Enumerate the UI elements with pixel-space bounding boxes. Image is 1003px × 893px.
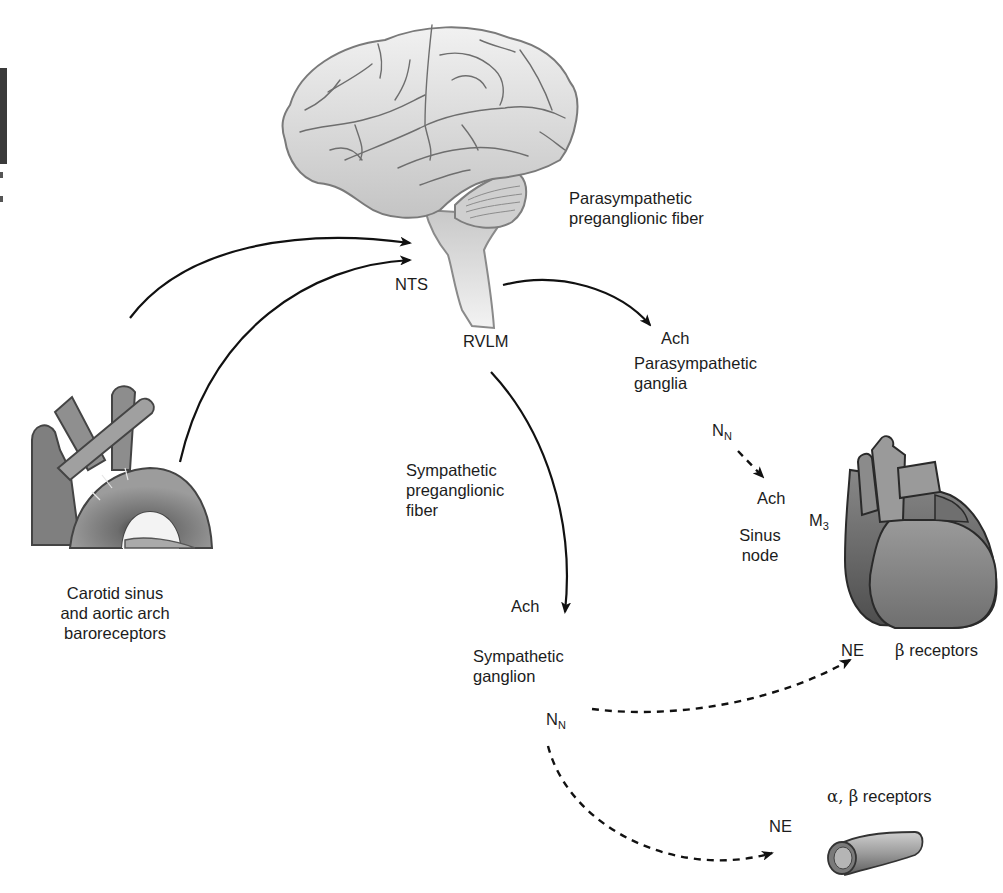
label-line: Sympathetic <box>473 646 564 666</box>
brain-icon <box>283 25 578 328</box>
vessel-alpha-beta-receptors-label: α, β receptors <box>827 786 932 807</box>
sympathetic-cardiac-arrow <box>592 660 850 712</box>
afferent-arrows <box>130 238 410 462</box>
afferent-arrow-aortic <box>180 260 410 462</box>
sympathetic-nn-receptor-label: NN <box>546 709 566 729</box>
afferent-arrow-carotid <box>130 238 410 318</box>
sympathetic-preganglionic-label: Sympathetic preganglionic fiber <box>406 460 504 520</box>
label-line: ganglia <box>634 373 757 393</box>
sympathetic-ganglion-label: Sympathetic ganglion <box>473 646 564 686</box>
sympathetic-vascular-arrow <box>548 746 772 860</box>
parasympathetic-ganglia-label: Parasympathetic ganglia <box>634 353 757 393</box>
rvlm-label: RVLM <box>463 331 509 351</box>
parasympathetic-preganglionic-label: Parasympathetic preganglionic fiber <box>569 188 704 228</box>
label-line: and aortic arch <box>30 603 200 623</box>
label-line: Carotid sinus <box>30 583 200 603</box>
parasympathetic-preganglionic-arrow <box>503 280 650 325</box>
efferent-dashed-arrows <box>548 451 850 860</box>
sympathetic-ach-label: Ach <box>511 596 539 616</box>
baroreflex-diagram <box>0 0 1003 893</box>
label-line: fiber <box>406 500 504 520</box>
blood-vessel-icon <box>828 832 923 875</box>
efferent-solid-arrows <box>491 280 650 612</box>
label-line: Sympathetic <box>406 460 504 480</box>
label-line: Sinus <box>730 525 790 545</box>
m3-receptor-label: M3 <box>809 510 829 530</box>
sinus-node-label: Sinus node <box>730 525 790 565</box>
parasympathetic-ach-label: Ach <box>661 328 689 348</box>
vessel-ne-label: NE <box>769 816 792 836</box>
heart-ne-label: NE <box>841 640 864 660</box>
baroreceptors-label: Carotid sinus and aortic arch barorecept… <box>30 583 200 643</box>
label-line: node <box>730 545 790 565</box>
nts-label: NTS <box>395 274 428 294</box>
label-line: baroreceptors <box>30 623 200 643</box>
label-line: Parasympathetic <box>634 353 757 373</box>
heart-beta-receptors-label: β receptors <box>895 640 978 661</box>
label-line: ganglion <box>473 666 564 686</box>
label-line: preganglionic <box>406 480 504 500</box>
sinus-node-ach-label: Ach <box>757 488 785 508</box>
parasympathetic-postganglionic-arrow <box>738 451 763 477</box>
parasympathetic-nn-receptor-label: NN <box>712 420 732 440</box>
label-line: Parasympathetic <box>569 188 704 208</box>
aortic-arch-icon <box>32 386 212 548</box>
heart-icon <box>845 436 997 628</box>
label-line: preganglionic fiber <box>569 208 704 228</box>
